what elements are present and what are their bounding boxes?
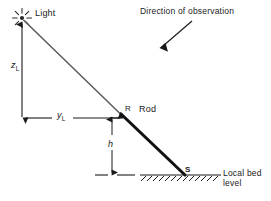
y-subscript: L [62, 115, 66, 122]
direction-of-observation-label: Direction of observation [140, 7, 234, 17]
h-dimension-label: h [108, 139, 113, 149]
hatch-ground-icon [141, 176, 218, 181]
y-dimension-label: yL [57, 110, 65, 122]
light-ray-line [24, 20, 122, 115]
point-s-label: S [185, 166, 191, 175]
point-r-label: R [125, 105, 131, 114]
arrow-down-left-icon [163, 21, 192, 46]
z-dimension-label: zL [11, 60, 19, 72]
light-source-label: Light [35, 8, 56, 18]
z-subscript: L [16, 65, 20, 72]
local-bed-level-label: Local bed level [223, 169, 262, 188]
rod-label: Rod [139, 104, 156, 114]
local-bed-level-line-2: level [223, 179, 262, 189]
schematic-figure: Light Direction of observation Rod R S L… [0, 0, 271, 201]
rod-line [121, 114, 185, 175]
